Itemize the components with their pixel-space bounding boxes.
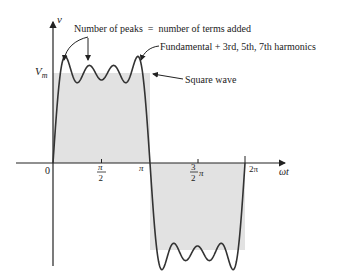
tick-label-three-half-den: 2 <box>191 173 196 183</box>
tick-label-pi-half-den: 2 <box>99 173 104 183</box>
square-wave-positive-fill <box>53 73 150 163</box>
tick-label-three-half-num: 3 <box>191 162 196 172</box>
y-axis-label: v <box>57 13 62 25</box>
arrow-harmonics <box>141 46 159 60</box>
arrow-square-wave <box>153 74 183 79</box>
origin-label: 0 <box>45 165 50 176</box>
annotation-harmonics: Fundamental + 3rd, 5th, 7th harmonics <box>160 41 316 52</box>
vm-label: Vm <box>35 65 48 80</box>
fourier-square-wave-diagram: v ωt 0 Vm π 2 π 3 2 π 2π Number of peaks… <box>0 0 341 280</box>
x-axis-label: ωt <box>279 166 289 177</box>
annotation-peaks: Number of peaks = number of terms added <box>74 23 251 34</box>
tick-label-three-half-pi: π <box>199 168 204 178</box>
annotation-square-wave: Square wave <box>185 74 237 85</box>
tick-label-pi-half-num: π <box>98 162 103 172</box>
tick-label-two-pi: 2π <box>249 164 259 174</box>
square-wave-negative-fill <box>150 163 245 250</box>
tick-label-pi: π <box>139 163 144 173</box>
arrow-peaks-first <box>64 37 88 60</box>
